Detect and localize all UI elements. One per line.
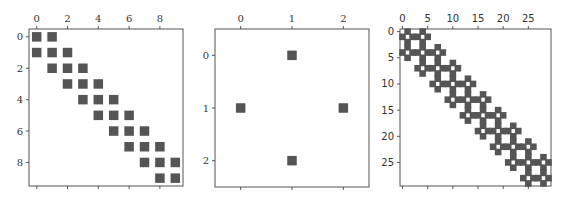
nonzero-markers	[236, 51, 348, 166]
y-tick-label: 0	[388, 26, 394, 37]
x-tick-label: 25	[522, 13, 535, 24]
nonzero-marker	[480, 133, 487, 140]
nonzero-marker	[63, 48, 73, 58]
nonzero-marker	[171, 158, 181, 168]
nonzero-marker	[124, 142, 134, 152]
nonzero-marker	[140, 142, 150, 152]
nonzero-marker	[510, 164, 517, 171]
y-tick-label: 1	[203, 103, 209, 114]
x-tick-label: 15	[472, 13, 485, 24]
y-tick-label: 4	[17, 94, 23, 105]
nonzero-marker	[63, 64, 73, 74]
nonzero-marker	[465, 117, 472, 124]
nonzero-marker	[434, 86, 441, 93]
spy-plot-cross-3x3: 012012	[203, 13, 369, 190]
x-tick-label: 10	[446, 13, 459, 24]
nonzero-markers	[32, 32, 180, 183]
axes-frame	[400, 29, 551, 186]
nonzero-marker	[140, 158, 150, 168]
nonzero-marker	[236, 103, 246, 113]
nonzero-marker	[47, 32, 57, 42]
x-tick-label: 5	[424, 13, 430, 24]
nonzero-marker	[155, 158, 165, 168]
x-tick-label: 1	[289, 13, 295, 24]
nonzero-marker	[32, 48, 42, 58]
spy-plot-tridiagonal-10x10: 0246802468	[17, 13, 183, 189]
y-tick-label: 25	[381, 157, 394, 168]
nonzero-marker	[94, 111, 104, 121]
nonzero-marker	[450, 102, 457, 109]
nonzero-marker	[140, 126, 150, 136]
nonzero-marker	[124, 126, 134, 136]
spy-plot-kron-30x30: 05101520250510152025	[381, 13, 552, 189]
x-tick-label: 2	[64, 13, 70, 24]
nonzero-marker	[47, 48, 57, 58]
y-tick-label: 0	[203, 50, 209, 61]
nonzero-marker	[339, 103, 349, 113]
y-tick-label: 2	[203, 155, 209, 166]
nonzero-marker	[78, 79, 88, 89]
x-tick-label: 8	[157, 13, 163, 24]
nonzero-marker	[171, 173, 181, 183]
nonzero-marker	[124, 111, 134, 121]
nonzero-marker	[495, 149, 502, 156]
x-tick-label: 6	[126, 13, 132, 24]
x-tick-label: 0	[237, 13, 243, 24]
nonzero-markers	[399, 28, 552, 186]
y-tick-label: 10	[381, 78, 394, 89]
y-tick-label: 8	[17, 157, 23, 168]
x-tick-label: 20	[497, 13, 510, 24]
nonzero-marker	[287, 156, 297, 166]
y-tick-label: 0	[17, 31, 23, 42]
nonzero-marker	[109, 111, 119, 121]
y-tick-label: 5	[388, 52, 394, 63]
nonzero-marker	[94, 79, 104, 89]
spy-plots-canvas: 0246802468 012012 05101520250510152025	[0, 0, 567, 198]
y-tick-label: 15	[381, 105, 394, 116]
nonzero-marker	[78, 95, 88, 105]
nonzero-marker	[78, 64, 88, 74]
y-tick-label: 6	[17, 126, 23, 137]
x-tick-label: 2	[340, 13, 346, 24]
y-tick-label: 2	[17, 63, 23, 74]
nonzero-marker	[419, 70, 426, 77]
nonzero-marker	[47, 64, 57, 74]
x-tick-label: 0	[399, 13, 405, 24]
x-tick-label: 4	[95, 13, 101, 24]
x-tick-label: 0	[34, 13, 40, 24]
nonzero-marker	[404, 54, 411, 61]
nonzero-marker	[94, 95, 104, 105]
nonzero-marker	[109, 126, 119, 136]
y-tick-label: 20	[381, 131, 394, 142]
nonzero-marker	[109, 95, 119, 105]
nonzero-marker	[155, 173, 165, 183]
nonzero-marker	[287, 51, 297, 61]
nonzero-marker	[63, 79, 73, 89]
nonzero-marker	[155, 142, 165, 152]
nonzero-marker	[32, 32, 42, 42]
